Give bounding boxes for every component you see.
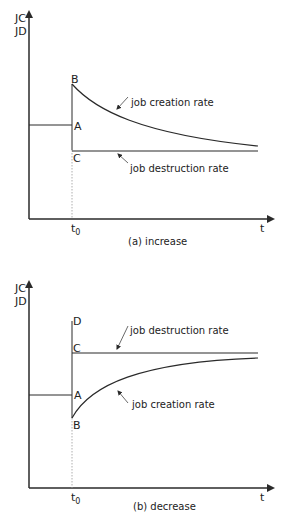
creation-pointer <box>117 97 128 109</box>
point-c: C <box>73 342 81 355</box>
job-creation-curve <box>72 84 258 146</box>
creation-label: job creation rate <box>130 97 214 108</box>
point-a: A <box>74 120 82 133</box>
destruction-pointer <box>118 154 128 163</box>
creation-pointer <box>118 391 128 403</box>
y-axis-label-jc: JC <box>14 12 26 25</box>
y-axis-label-jd: JD <box>14 25 27 38</box>
x-axis-label: t <box>260 222 265 235</box>
creation-label: job creation rate <box>131 399 215 410</box>
point-d: D <box>73 315 81 328</box>
y-axis-label-jc: JC <box>14 282 26 295</box>
x-axis-label: t <box>260 491 265 504</box>
point-b: B <box>73 419 81 432</box>
point-a: A <box>74 389 82 402</box>
point-b: B <box>71 73 79 86</box>
destruction-pointer <box>117 326 128 349</box>
t0-label: t0 <box>71 222 80 237</box>
point-c: C <box>73 152 81 165</box>
t0-label: t0 <box>71 491 80 506</box>
diagram-canvas: JC JD B A C job creation rate job destru… <box>0 0 291 527</box>
destruction-label: job destruction rate <box>129 163 229 174</box>
y-axis-label-jd: JD <box>14 295 27 308</box>
panel-b: JC JD D C A B job destruction rate job c… <box>14 282 273 512</box>
panel-a: JC JD B A C job creation rate job destru… <box>14 12 273 247</box>
destruction-label: job destruction rate <box>129 325 229 336</box>
caption-b: (b) decrease <box>133 501 196 512</box>
caption-a: (a) increase <box>128 236 187 247</box>
